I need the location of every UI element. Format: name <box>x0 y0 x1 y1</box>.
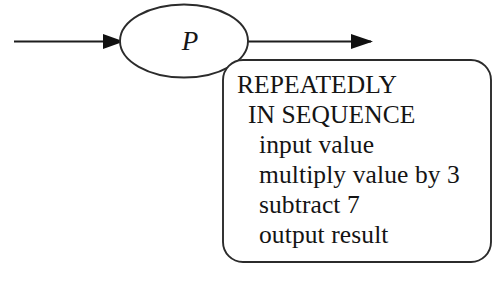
spec-line-in-sequence: IN SEQUENCE <box>248 100 416 129</box>
output-arrow <box>243 34 373 49</box>
spec-line-subtract: subtract 7 <box>259 190 360 219</box>
spec-line-input-value: input value <box>259 130 374 159</box>
spec-line-repeatedly: REPEATEDLY <box>237 70 397 99</box>
spec-line-output-result: output result <box>259 220 389 249</box>
process-label: P <box>181 26 199 56</box>
input-arrow <box>14 34 124 49</box>
diagram-svg: P REPEATEDLY IN SEQUENCE input value mul… <box>0 0 503 283</box>
spec-line-multiply-value: multiply value by 3 <box>259 160 460 189</box>
output-arrow-head <box>351 34 373 49</box>
diagram-canvas: P REPEATEDLY IN SEQUENCE input value mul… <box>0 0 503 283</box>
